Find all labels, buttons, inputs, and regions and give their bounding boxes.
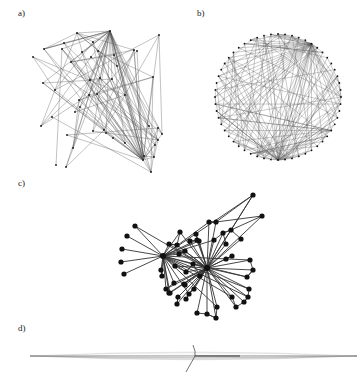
node bbox=[339, 82, 341, 84]
edge bbox=[215, 104, 331, 130]
node bbox=[245, 294, 250, 299]
edge bbox=[215, 97, 219, 118]
node bbox=[174, 242, 179, 247]
node bbox=[259, 213, 264, 218]
edge bbox=[66, 78, 100, 167]
node bbox=[166, 241, 171, 246]
node bbox=[340, 89, 342, 91]
node bbox=[277, 33, 279, 35]
node bbox=[322, 141, 324, 143]
node bbox=[157, 139, 159, 141]
edge bbox=[219, 38, 299, 77]
node bbox=[228, 227, 233, 232]
edge bbox=[143, 160, 151, 172]
node bbox=[238, 236, 243, 241]
node bbox=[334, 123, 336, 125]
node bbox=[157, 127, 159, 129]
node bbox=[112, 137, 114, 139]
node bbox=[154, 144, 156, 146]
node bbox=[223, 241, 228, 246]
node bbox=[92, 130, 94, 132]
node bbox=[65, 166, 67, 168]
node bbox=[133, 49, 135, 51]
node bbox=[113, 54, 115, 56]
edge bbox=[33, 57, 55, 90]
node bbox=[121, 271, 126, 276]
node bbox=[177, 229, 182, 234]
node bbox=[241, 299, 246, 304]
edge bbox=[305, 44, 311, 154]
node bbox=[136, 50, 138, 52]
node bbox=[66, 134, 68, 136]
node bbox=[337, 117, 339, 119]
node bbox=[148, 125, 150, 127]
node bbox=[250, 39, 252, 41]
node bbox=[78, 99, 80, 101]
node bbox=[90, 56, 92, 58]
node bbox=[183, 296, 188, 301]
node bbox=[330, 130, 332, 132]
node bbox=[124, 94, 126, 96]
edge bbox=[217, 111, 278, 160]
node bbox=[79, 106, 81, 108]
edge bbox=[264, 76, 337, 158]
node bbox=[119, 246, 124, 251]
node bbox=[143, 155, 145, 157]
edge bbox=[225, 40, 251, 63]
node bbox=[206, 219, 211, 224]
node bbox=[247, 257, 252, 262]
node bbox=[118, 259, 123, 264]
node bbox=[105, 132, 107, 134]
node bbox=[250, 153, 252, 155]
node bbox=[270, 159, 272, 161]
node bbox=[97, 50, 99, 52]
node bbox=[191, 286, 196, 291]
node bbox=[175, 294, 180, 299]
edge bbox=[159, 35, 162, 134]
node bbox=[228, 57, 230, 59]
node bbox=[42, 82, 44, 84]
node bbox=[61, 48, 63, 50]
node bbox=[51, 116, 53, 118]
node bbox=[256, 156, 258, 158]
node bbox=[218, 117, 220, 119]
node bbox=[187, 238, 192, 243]
node bbox=[322, 52, 324, 54]
node bbox=[291, 35, 293, 37]
edge bbox=[110, 31, 154, 157]
node bbox=[244, 149, 246, 151]
node bbox=[63, 42, 65, 44]
node bbox=[186, 291, 191, 296]
node bbox=[214, 89, 216, 91]
edge bbox=[71, 62, 143, 160]
edge bbox=[77, 33, 93, 42]
node bbox=[99, 77, 101, 79]
node bbox=[229, 253, 234, 258]
hub-node bbox=[204, 265, 210, 271]
node bbox=[92, 41, 94, 43]
node bbox=[32, 56, 34, 58]
node bbox=[96, 93, 98, 95]
edge bbox=[271, 44, 312, 160]
node bbox=[330, 63, 332, 65]
edge bbox=[305, 104, 340, 154]
edge bbox=[41, 33, 77, 126]
node bbox=[40, 125, 42, 127]
node bbox=[183, 269, 188, 274]
node bbox=[298, 37, 300, 39]
node bbox=[55, 164, 57, 166]
node bbox=[216, 110, 218, 112]
node bbox=[263, 35, 265, 37]
panel-d-linear-layout-graph bbox=[30, 345, 357, 372]
edge bbox=[278, 52, 323, 160]
node bbox=[246, 286, 251, 291]
node bbox=[263, 158, 265, 160]
node bbox=[304, 39, 306, 41]
node bbox=[109, 30, 111, 32]
node bbox=[194, 310, 199, 315]
node bbox=[214, 103, 216, 105]
panel-a-random-layout-graph bbox=[32, 30, 163, 173]
node bbox=[111, 78, 113, 80]
edge bbox=[41, 95, 89, 126]
node bbox=[153, 156, 155, 158]
